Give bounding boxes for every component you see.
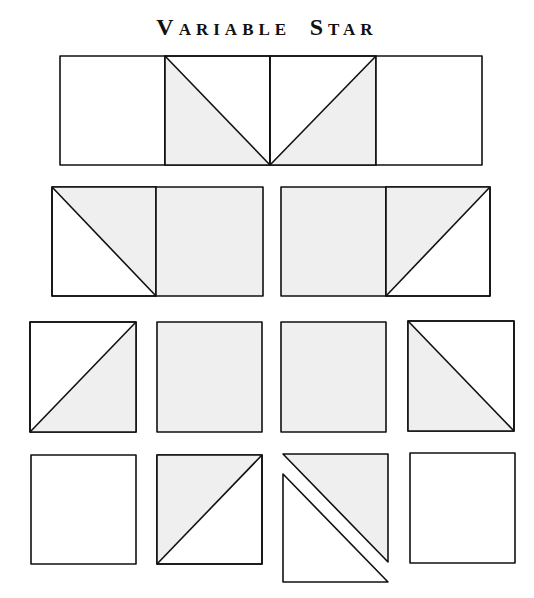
quilt-assembly-diagram [0,0,534,598]
row2-pair-left [52,187,263,296]
row4-plain-square-left [31,455,136,564]
row2-pair-right [281,187,490,296]
row3-shaded-square-2 [281,322,386,432]
row4-plain-square-right [410,453,515,563]
row-2 [52,187,490,296]
row-3 [30,321,514,432]
row3-hst-right [408,321,514,431]
row2-shaded-square-right [281,187,386,296]
row-1 [60,56,482,165]
row-4 [31,453,515,582]
row1-hst-right [270,56,376,165]
row3-shaded-square-1 [157,322,262,432]
row1-plain-square-left [60,56,165,165]
row1-plain-square-right [376,56,482,165]
row4-hst [157,455,262,564]
row3-hst-left [30,322,136,432]
row2-shaded-square-left [156,187,263,296]
row1-hst-left [165,56,270,165]
